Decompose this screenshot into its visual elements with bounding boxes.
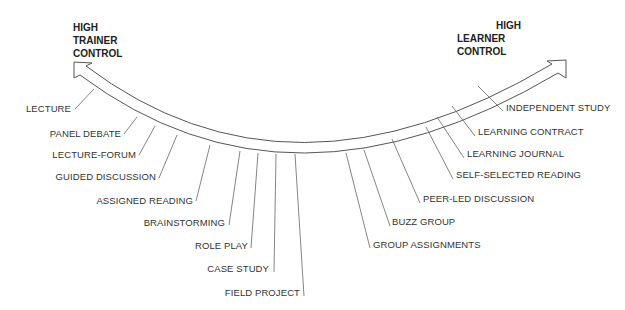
svg-text:LEARNER: LEARNER (457, 33, 506, 44)
method-learning-journal: LEARNING JOURNAL (467, 148, 564, 159)
control-continuum-diagram: HIGH TRAINER CONTROL HIGH LEARNER CONTRO… (0, 0, 625, 310)
method-lecture: LECTURE (26, 103, 71, 114)
method-role-play: ROLE PLAY (195, 240, 249, 251)
svg-text:HIGH: HIGH (496, 20, 521, 31)
method-self-selected-reading: SELF-SELECTED READING (456, 169, 581, 180)
svg-text:HIGH: HIGH (73, 22, 98, 33)
method-field-project: FIELD PROJECT (225, 287, 300, 298)
method-panel-debate: PANEL DEBATE (50, 128, 121, 139)
svg-text:CONTROL: CONTROL (457, 46, 506, 57)
arrowhead-right-icon (547, 60, 566, 78)
header-high-learner-control: HIGH LEARNER CONTROL (457, 20, 521, 57)
svg-text:CONTROL: CONTROL (73, 48, 122, 59)
header-high-trainer-control: HIGH TRAINER CONTROL (73, 22, 122, 59)
method-peer-led-discussion: PEER-LED DISCUSSION (423, 193, 534, 204)
method-case-study: CASE STUDY (207, 263, 269, 274)
left-method-labels: LECTURE PANEL DEBATE LECTURE-FORUM GUIDE… (26, 89, 304, 298)
method-brainstorming: BRAINSTORMING (144, 217, 225, 228)
method-independent-study: INDEPENDENT STUDY (506, 102, 611, 113)
method-buzz-group: BUZZ GROUP (392, 216, 455, 227)
method-learning-contract: LEARNING CONTRACT (478, 126, 584, 137)
method-group-assignments: GROUP ASSIGNMENTS (373, 239, 481, 250)
svg-text:TRAINER: TRAINER (73, 35, 118, 46)
method-guided-discussion: GUIDED DISCUSSION (56, 171, 156, 182)
method-lecture-forum: LECTURE-FORUM (52, 149, 136, 160)
right-method-labels: GROUP ASSIGNMENTS BUZZ GROUP PEER-LED DI… (346, 86, 611, 250)
method-assigned-reading: ASSIGNED READING (96, 195, 193, 206)
arrowhead-left-icon (74, 62, 92, 78)
